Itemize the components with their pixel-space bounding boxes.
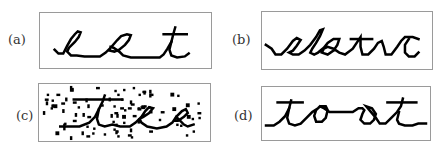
panel-b-aleatc [261,11,433,70]
handwriting-toat [262,87,430,140]
panel-label-b: (b) [232,33,250,46]
panel-label-c: (c) [16,109,33,122]
panel-d-toat [261,86,431,141]
handwriting-eat [40,13,211,68]
panel-label-a: (a) [8,33,26,46]
handwriting-aleatc [262,12,432,69]
handwriting-tea-with-noise [39,84,210,141]
panel-c-tea-noisy [38,83,211,142]
panel-label-d: (d) [234,109,252,122]
noise-pixels [43,86,201,140]
panel-a-eat [39,12,212,69]
